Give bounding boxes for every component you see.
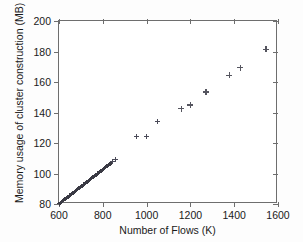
x-tick-label: 600 (50, 209, 68, 221)
plot-area: 8010012014016018020060080010001200140016… (58, 20, 277, 203)
data-point (99, 169, 103, 173)
data-point (91, 175, 95, 179)
data-point (85, 180, 89, 184)
data-point (99, 169, 103, 173)
y-tick-mark-right (273, 174, 278, 175)
data-point (71, 191, 75, 195)
x-tick-label: 1600 (266, 209, 289, 221)
x-tick-mark-top (278, 19, 279, 24)
data-point (94, 173, 98, 177)
x-tick-mark-top (234, 19, 235, 24)
data-point (67, 194, 71, 198)
y-tick-mark (54, 113, 59, 114)
data-point (64, 197, 68, 201)
x-tick-mark (147, 202, 148, 207)
y-axis-label: Memory usage of cluster construction (MB… (12, 20, 26, 203)
data-point (72, 190, 76, 194)
data-point (62, 198, 66, 202)
data-point (76, 187, 80, 191)
x-tick-mark (190, 202, 191, 207)
data-point (103, 166, 107, 170)
data-point (187, 102, 193, 108)
data-point (89, 177, 93, 181)
x-tick-mark (278, 202, 279, 207)
data-point (80, 184, 84, 188)
x-tick-label: 1200 (179, 209, 202, 221)
data-point (100, 168, 104, 172)
x-tick-label: 800 (94, 209, 112, 221)
y-tick-mark (54, 52, 59, 53)
y-tick-mark-right (273, 113, 278, 114)
data-point (74, 188, 78, 192)
data-point (155, 119, 160, 124)
y-tick-label: 160 (33, 76, 51, 88)
data-point (71, 191, 75, 195)
data-point (68, 193, 72, 197)
x-tick-mark-top (59, 19, 60, 24)
data-point (178, 106, 184, 112)
data-point (70, 192, 74, 196)
data-point (63, 197, 67, 201)
data-point (73, 189, 77, 193)
data-point (108, 162, 112, 166)
data-point (77, 186, 81, 190)
x-tick-mark (234, 202, 235, 207)
data-point (97, 171, 101, 175)
x-tick-mark-top (103, 19, 104, 24)
y-tick-mark-right (273, 52, 278, 53)
data-point (203, 89, 209, 95)
data-point (98, 170, 102, 174)
x-tick-label: 1000 (135, 209, 158, 221)
data-point (105, 164, 109, 168)
data-point (106, 163, 110, 167)
x-axis-label: Number of Flows (K) (58, 224, 277, 236)
data-point (106, 164, 110, 168)
data-point (92, 174, 96, 178)
data-point (113, 157, 118, 162)
data-point (110, 159, 115, 164)
data-point (95, 172, 99, 176)
data-point (87, 178, 91, 182)
data-point (107, 162, 111, 166)
data-point (69, 193, 73, 197)
figure-canvas: Memory usage of cluster construction (MB… (0, 0, 303, 242)
y-tick-mark-right (273, 143, 278, 144)
y-tick-mark (54, 143, 59, 144)
data-point (85, 180, 89, 184)
data-point (61, 199, 65, 203)
data-point (82, 182, 86, 186)
data-point (81, 183, 85, 187)
data-point (237, 65, 243, 71)
data-point (226, 72, 232, 78)
data-point (60, 199, 64, 203)
data-point (66, 195, 70, 199)
data-point (86, 179, 90, 183)
y-tick-mark (54, 82, 59, 83)
y-tick-label: 100 (33, 168, 51, 180)
x-tick-label: 1400 (223, 209, 246, 221)
data-point (92, 175, 96, 179)
data-point (263, 46, 269, 52)
data-point (64, 196, 68, 200)
data-point (75, 188, 79, 192)
data-point (79, 184, 83, 188)
x-tick-mark (59, 202, 60, 207)
y-tick-mark (54, 174, 59, 175)
x-tick-mark-top (190, 19, 191, 24)
y-tick-label: 120 (33, 137, 51, 149)
data-point (96, 171, 100, 175)
data-point (101, 167, 105, 171)
y-tick-label: 80 (39, 198, 51, 210)
data-point (83, 182, 87, 186)
data-point (84, 181, 88, 185)
data-point (93, 173, 97, 177)
data-point (90, 176, 94, 180)
data-point (88, 177, 92, 181)
data-point (104, 165, 108, 169)
data-point (134, 134, 139, 139)
x-tick-mark (103, 202, 104, 207)
data-point (102, 166, 106, 170)
y-axis-label-host: Memory usage of cluster construction (MB… (0, 0, 20, 242)
data-point (78, 185, 82, 189)
data-point (144, 134, 149, 139)
